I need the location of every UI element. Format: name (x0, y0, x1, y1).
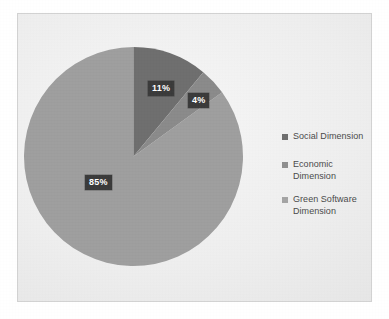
legend-label-economic: Economic Dimension (293, 158, 372, 182)
legend-item-economic[interactable]: Economic Dimension (265, 158, 372, 182)
legend-label-green-software: Green Software Dimension (293, 193, 372, 217)
legend-marker-economic-icon (282, 162, 288, 168)
data-label-green-software: 85% (85, 175, 112, 190)
legend-marker-green-software-icon (282, 197, 288, 203)
chart-legend: Social Dimension Economic Dimension Gree… (265, 130, 372, 217)
legend-label-social: Social Dimension (293, 130, 363, 142)
legend-item-green-software[interactable]: Green Software Dimension (265, 193, 372, 217)
pie-chart-screenshot: 11% 4% 85% Social Dimension Economic Dim… (0, 0, 389, 319)
legend-item-social[interactable]: Social Dimension (265, 130, 372, 142)
legend-marker-social-icon (282, 134, 288, 140)
data-label-economic: 4% (188, 93, 209, 108)
data-label-social: 11% (148, 81, 174, 96)
